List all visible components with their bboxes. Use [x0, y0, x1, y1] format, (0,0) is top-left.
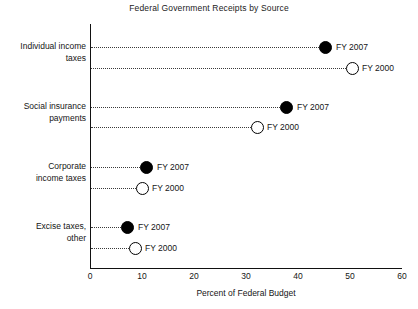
y-axis-line — [90, 24, 91, 269]
data-point-marker-fy2000[interactable] — [251, 121, 264, 134]
data-point-label: FY 2000 — [152, 184, 184, 193]
x-tick-label-40: 40 — [286, 271, 310, 281]
category-label-corporate-income-taxes: Corporate income taxes — [0, 161, 88, 184]
leader-line — [91, 167, 140, 168]
x-tick-label-30: 30 — [234, 271, 258, 281]
data-point-marker-fy2000[interactable] — [346, 62, 359, 75]
data-point-label: FY 2007 — [157, 163, 189, 172]
category-label-line1: Excise taxes, — [0, 221, 86, 233]
category-label-line2: income taxes — [0, 173, 86, 185]
category-label-line2: taxes — [0, 53, 86, 65]
category-label-individual-income-taxes: Individual income taxes — [0, 41, 88, 64]
leader-line — [91, 47, 319, 48]
data-point-label: FY 2000 — [145, 244, 177, 253]
x-tick-label-0: 0 — [78, 271, 102, 281]
leader-line — [91, 68, 346, 69]
data-point-label: FY 2007 — [138, 223, 170, 232]
data-point-label: FY 2000 — [267, 123, 299, 132]
leader-line — [91, 127, 251, 128]
category-label-line1: Corporate — [0, 161, 86, 173]
data-point-label: FY 2000 — [362, 64, 394, 73]
leader-line — [91, 227, 121, 228]
x-tick-label-10: 10 — [130, 271, 154, 281]
leader-line — [91, 107, 280, 108]
category-label-line2: payments — [0, 113, 86, 125]
data-point-marker-fy2007[interactable] — [280, 101, 293, 114]
chart-title: Federal Government Receipts by Source — [0, 3, 418, 13]
leader-line — [91, 248, 129, 249]
x-tick-label-60: 60 — [390, 271, 414, 281]
category-label-line1: Individual income — [0, 41, 86, 53]
x-axis-line — [90, 268, 402, 269]
x-tick-label-50: 50 — [338, 271, 362, 281]
category-label-line1: Social insurance — [0, 101, 86, 113]
data-point-marker-fy2007[interactable] — [140, 161, 153, 174]
data-point-marker-fy2000[interactable] — [136, 182, 149, 195]
x-tick-label-20: 20 — [182, 271, 206, 281]
category-label-line2: other — [0, 233, 86, 245]
data-point-label: FY 2007 — [336, 43, 368, 52]
x-axis-title: Percent of Federal Budget — [90, 288, 402, 298]
chart-container: Federal Government Receipts by Source In… — [0, 0, 418, 309]
category-label-social-insurance-payments: Social insurance payments — [0, 101, 88, 124]
leader-line — [91, 188, 136, 189]
data-point-marker-fy2007[interactable] — [319, 41, 332, 54]
data-point-marker-fy2007[interactable] — [121, 221, 134, 234]
data-point-marker-fy2000[interactable] — [129, 242, 142, 255]
category-label-excise-taxes-other: Excise taxes, other — [0, 221, 88, 244]
data-point-label: FY 2007 — [297, 103, 329, 112]
